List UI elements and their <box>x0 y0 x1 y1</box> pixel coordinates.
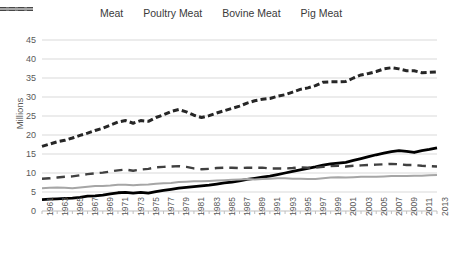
x-axis-tick-label: 1985 <box>228 197 237 216</box>
x-axis-tick-label: 2009 <box>410 197 419 216</box>
x-axis-tick-label: 1969 <box>106 197 115 216</box>
x-axis-tick-label: 1963 <box>61 197 70 216</box>
x-axis-tick-label: 2007 <box>395 197 404 216</box>
y-axis-tick-label: 45 <box>12 36 36 45</box>
x-axis-tick-label: 1961 <box>46 197 55 216</box>
y-axis-tick-label: 5 <box>12 188 36 197</box>
x-axis-tick-label: 1989 <box>258 197 267 216</box>
x-axis-tick-label: 1981 <box>197 197 206 216</box>
x-axis-tick-label: 2005 <box>380 197 389 216</box>
x-axis-tick-label: 1999 <box>334 197 343 216</box>
y-axis-tick-label: 0 <box>12 207 36 216</box>
x-axis-tick-label: 1995 <box>304 197 313 216</box>
x-axis-tick-label: 1987 <box>243 197 252 216</box>
x-axis-tick-label: 1967 <box>91 197 100 216</box>
y-axis-tick-label: 15 <box>12 150 36 159</box>
x-axis-tick-label: 1971 <box>121 197 130 216</box>
x-axis-tick-label: 2001 <box>349 197 358 216</box>
x-axis-tick-label: 1965 <box>76 197 85 216</box>
y-axis-tick-label: 35 <box>12 74 36 83</box>
x-axis-tick-label: 1975 <box>152 197 161 216</box>
x-axis-tick-label: 1977 <box>167 197 176 216</box>
y-axis-tick-label: 10 <box>12 169 36 178</box>
y-axis-tick-label: 40 <box>12 55 36 64</box>
x-axis-tick-label: 1993 <box>289 197 298 216</box>
x-axis-tick-label: 1979 <box>182 197 191 216</box>
x-axis-tick-label: 1973 <box>137 197 146 216</box>
y-axis-tick-label: 25 <box>12 112 36 121</box>
y-axis-tick-label: 30 <box>12 93 36 102</box>
x-axis-tick-label: 2013 <box>441 197 450 216</box>
x-axis-tick-label: 2003 <box>365 197 374 216</box>
x-axis-tick-label: 1991 <box>273 197 282 216</box>
x-axis-tick-label: 2011 <box>425 198 434 216</box>
x-axis-tick-label: 1997 <box>319 197 328 216</box>
y-axis-tick-label: 20 <box>12 131 36 140</box>
x-axis-tick-label: 1983 <box>213 197 222 216</box>
